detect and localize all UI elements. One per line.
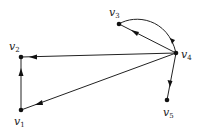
node-v4 (174, 51, 179, 56)
edge-v4-v1 (21, 53, 176, 110)
arrowhead-v1-v2 (19, 68, 24, 76)
directed-graph (0, 0, 205, 139)
arrowhead-v4-v3 (131, 30, 139, 36)
edge-v4-v3 (119, 24, 176, 53)
arrowhead-v4-v1 (35, 100, 43, 105)
edge-v4-v5 (167, 53, 176, 100)
arrowhead-v3-v4 (170, 38, 175, 44)
node-v5 (165, 98, 170, 103)
arrowhead-v4-v5 (168, 80, 173, 87)
label-v3: v3 (109, 7, 120, 20)
node-v3 (117, 22, 122, 27)
label-v4: v4 (181, 49, 192, 62)
edge-v3-v4-arc (119, 19, 176, 53)
edge-v4-v2 (21, 53, 176, 57)
label-v1: v1 (14, 116, 25, 129)
arrowhead-v4-v2 (29, 55, 37, 60)
label-v5: v5 (163, 107, 174, 120)
label-v2: v2 (9, 41, 20, 54)
node-v2 (19, 55, 24, 60)
node-v1 (19, 108, 24, 113)
